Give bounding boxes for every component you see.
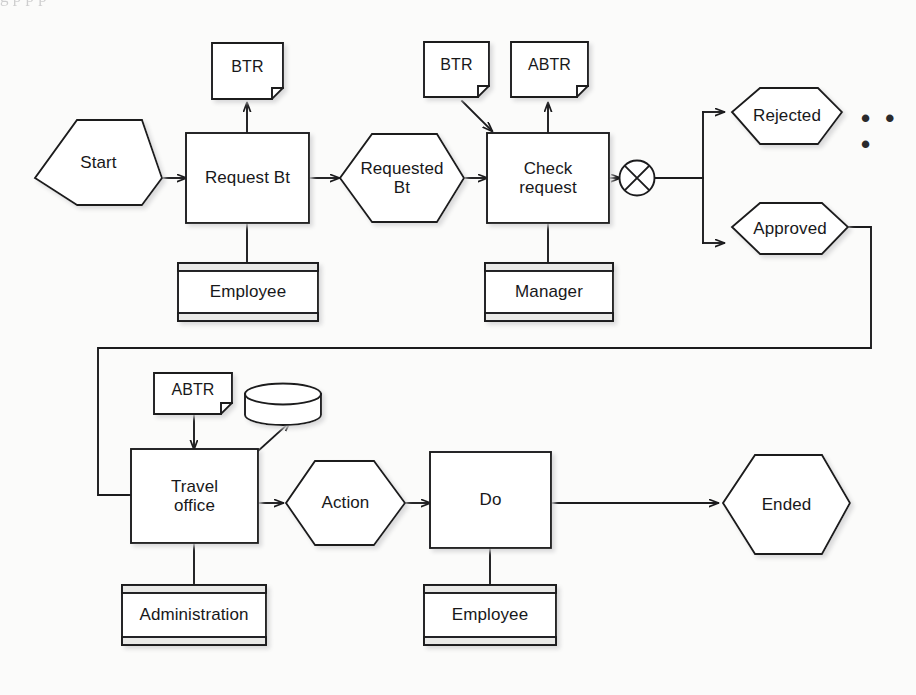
process-diagram-canvas: g p p p (0, 0, 916, 695)
event-action-shape (286, 461, 405, 545)
resource-employee-1-shape (178, 263, 318, 321)
event-ended-shape (723, 455, 850, 554)
event-requested-shape (340, 134, 464, 222)
document-abtr-top-shape (511, 42, 588, 97)
gateway-xor-split-shape (620, 161, 655, 196)
link-travel-office-to-database (257, 422, 290, 452)
data-store-database-shape (245, 384, 321, 426)
continuation-ellipsis: • • • (861, 105, 916, 157)
function-request-bt-shape (186, 133, 309, 223)
event-approved-shape (732, 203, 848, 254)
document-abtr-lower-shape (154, 373, 232, 414)
resource-manager-shape (485, 263, 613, 321)
resource-administration-shape (122, 585, 266, 645)
event-start-shape (35, 120, 162, 205)
link-btr-to-check (462, 101, 492, 131)
event-rejected-shape (732, 88, 842, 144)
diagram-vector-layer (0, 0, 916, 695)
function-check-request-shape (487, 133, 609, 223)
function-do-shape (430, 452, 551, 548)
function-travel-office-shape (131, 449, 258, 543)
resource-employee-2-shape (424, 585, 556, 645)
document-btr-top-shape (212, 43, 283, 99)
document-btr-mid-shape (424, 42, 489, 97)
